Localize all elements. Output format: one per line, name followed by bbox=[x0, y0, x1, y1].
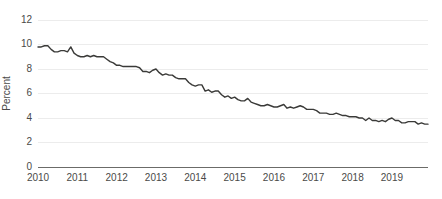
y-tick-label: 6 bbox=[26, 87, 32, 98]
chart-canvas: 024681012 201020112012201320142015201620… bbox=[0, 0, 442, 199]
series-line-unemployment-rate bbox=[38, 46, 428, 124]
y-axis-tick-labels: 024681012 bbox=[21, 14, 33, 172]
x-tick-label: 2011 bbox=[67, 172, 89, 183]
x-tick-label: 2016 bbox=[263, 172, 286, 183]
x-tick-label: 2013 bbox=[145, 172, 168, 183]
y-tick-label: 10 bbox=[21, 38, 33, 49]
x-tick-label: 2014 bbox=[184, 172, 207, 183]
x-tick-label: 2015 bbox=[224, 172, 247, 183]
y-axis-title: Percent bbox=[1, 76, 12, 111]
x-tick-label: 2019 bbox=[381, 172, 404, 183]
x-axis-tick-labels: 2010201120122013201420152016201720182019 bbox=[27, 172, 404, 183]
x-tick-label: 2017 bbox=[302, 172, 325, 183]
x-tick-label: 2012 bbox=[106, 172, 129, 183]
y-tick-label: 0 bbox=[26, 161, 32, 172]
y-tick-label: 4 bbox=[26, 112, 32, 123]
y-tick-label: 12 bbox=[21, 14, 33, 25]
unemployment-rate-chart: 024681012 201020112012201320142015201620… bbox=[0, 0, 442, 199]
y-tick-label: 2 bbox=[26, 136, 32, 147]
y-tick-label: 8 bbox=[26, 63, 32, 74]
x-tick-label: 2018 bbox=[341, 172, 364, 183]
x-tick-label: 2010 bbox=[27, 172, 50, 183]
gridlines-group bbox=[38, 20, 428, 143]
